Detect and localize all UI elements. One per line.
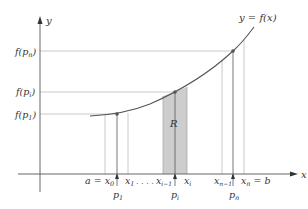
x-tick-xnm1: xn−1 <box>214 175 232 187</box>
x-tick-dots: . . . . <box>136 177 154 186</box>
x-axis-arrow-icon <box>290 172 298 177</box>
y-axis-arrow-icon <box>38 16 43 24</box>
x-tick-xi: xi <box>184 175 191 188</box>
curve-label: y = f(x) <box>238 12 277 23</box>
sample-label-pi: pi <box>171 189 179 202</box>
region-label: R <box>169 118 178 129</box>
y-axis-label: y <box>45 15 52 26</box>
x-tick-x1: x1 <box>125 175 135 188</box>
point-fpi <box>173 90 177 94</box>
x-tick-xn: xn = b <box>241 175 271 188</box>
sample-label-pn: pn <box>229 189 239 202</box>
x-tick-xim1: xi−1 <box>156 175 172 187</box>
x-axis-label: x <box>301 169 307 180</box>
point-fpn <box>231 49 235 53</box>
x-tick-x0: a = x0 <box>85 175 114 188</box>
y-tick-fpn: f(pn) <box>14 46 37 59</box>
sample-label-p1: p1 <box>113 189 123 202</box>
riemann-sum-diagram: y x y = f(x) R f(pn) f(pi) f(p1) a = x0 … <box>0 0 308 209</box>
y-tick-fpi: f(pi) <box>15 86 35 99</box>
y-tick-fp1: f(p1) <box>14 109 36 122</box>
point-fp1 <box>115 112 119 116</box>
